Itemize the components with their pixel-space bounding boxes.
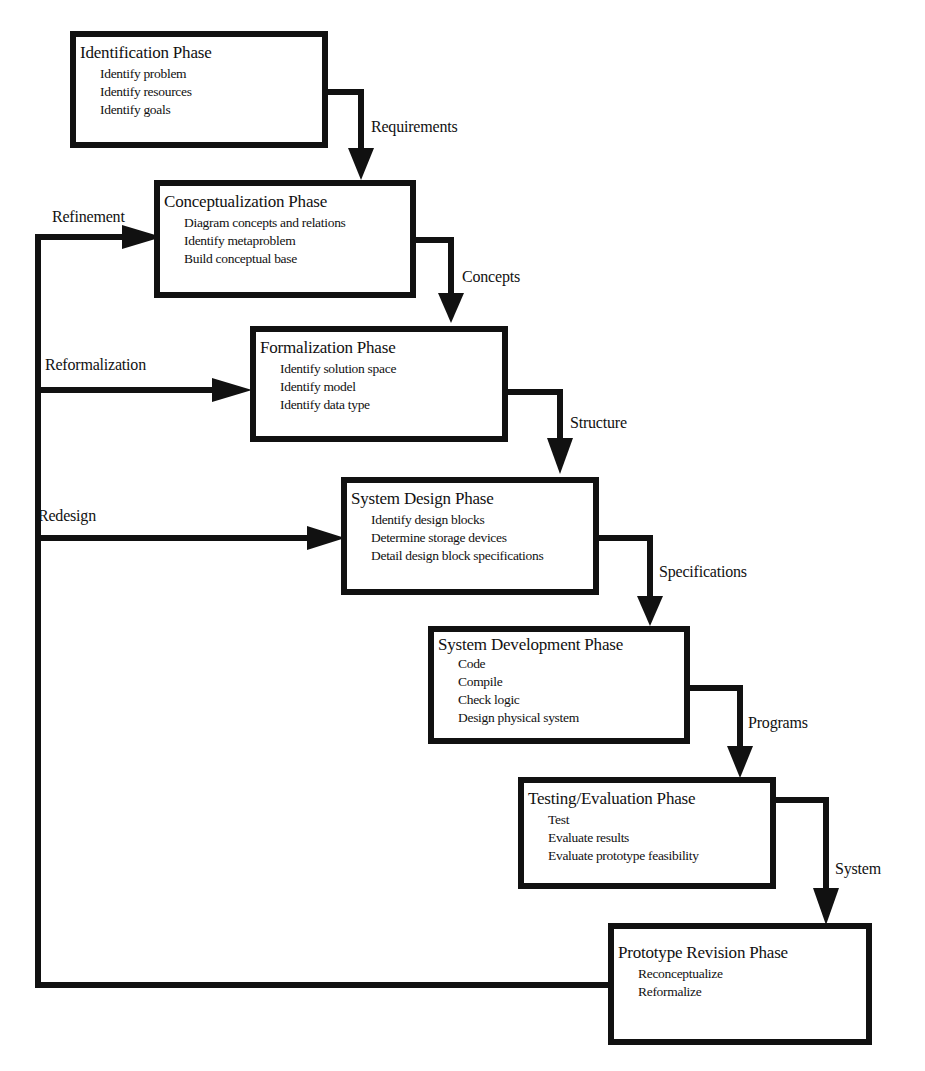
edge-label-redesign: Redesign: [38, 507, 96, 525]
phase-title: Formalization Phase: [260, 338, 498, 358]
arrowhead-programs: [727, 746, 753, 778]
phase-item: Identify metaproblem: [184, 232, 406, 250]
arrowhead-concepts: [438, 293, 464, 323]
arrowhead-structure: [547, 438, 573, 474]
arrowhead-requirements: [348, 148, 374, 180]
phase-item: Compile: [458, 673, 680, 691]
phase-item: Identify goals: [100, 101, 318, 119]
phase-title: Identification Phase: [80, 43, 318, 63]
phase-box-prototype-revision: Prototype Revision Phase Reconceptualize…: [608, 923, 872, 1045]
arrowhead-redesign: [307, 526, 345, 550]
phase-item: Design physical system: [458, 709, 680, 727]
phase-title: Prototype Revision Phase: [618, 943, 862, 963]
phase-item: Build conceptual base: [184, 250, 406, 268]
phase-box-system-development: System Development Phase Code Compile Ch…: [428, 626, 690, 744]
phase-item: Detail design block specifications: [371, 547, 589, 565]
arrowhead-system: [813, 888, 839, 925]
phase-box-formalization: Formalization Phase Identify solution sp…: [250, 326, 508, 442]
edge-label-programs: Programs: [748, 714, 808, 732]
phase-title: Testing/Evaluation Phase: [528, 789, 766, 809]
edge-label-concepts: Concepts: [462, 268, 520, 286]
phase-box-conceptualization: Conceptualization Phase Diagram concepts…: [154, 180, 416, 298]
phase-title: Conceptualization Phase: [164, 192, 406, 212]
edge-label-specifications: Specifications: [659, 563, 747, 581]
phase-item: Diagram concepts and relations: [184, 214, 406, 232]
phase-item: Reconceptualize: [638, 965, 862, 983]
phase-item: Determine storage devices: [371, 529, 589, 547]
arrowhead-specifications: [637, 596, 663, 626]
phase-item: Reformalize: [638, 983, 862, 1001]
phase-item: Evaluate prototype feasibility: [548, 847, 766, 865]
edge-label-refinement: Refinement: [52, 208, 125, 226]
edge-label-reformalization: Reformalization: [45, 356, 146, 374]
phase-item: Identify problem: [100, 65, 318, 83]
edge-label-structure: Structure: [570, 414, 627, 432]
edge-label-system: System: [835, 860, 881, 878]
phase-item: Identify model: [280, 378, 498, 396]
phase-item: Identify resources: [100, 83, 318, 101]
phase-item: Check logic: [458, 691, 680, 709]
phase-item: Identify solution space: [280, 360, 498, 378]
phase-box-identification: Identification Phase Identify problem Id…: [70, 31, 328, 148]
edge-label-requirements: Requirements: [371, 118, 457, 136]
phase-title: System Design Phase: [351, 489, 589, 509]
phase-item: Code: [458, 655, 680, 673]
phase-item: Identify design blocks: [371, 511, 589, 529]
phase-title: System Development Phase: [438, 635, 680, 655]
phase-item: Test: [548, 811, 766, 829]
phase-box-system-design: System Design Phase Identify design bloc…: [341, 477, 599, 595]
phase-box-testing-evaluation: Testing/Evaluation Phase Test Evaluate r…: [518, 777, 776, 889]
arrowhead-reformalization: [212, 378, 252, 402]
phase-item: Identify data type: [280, 396, 498, 414]
phase-item: Evaluate results: [548, 829, 766, 847]
